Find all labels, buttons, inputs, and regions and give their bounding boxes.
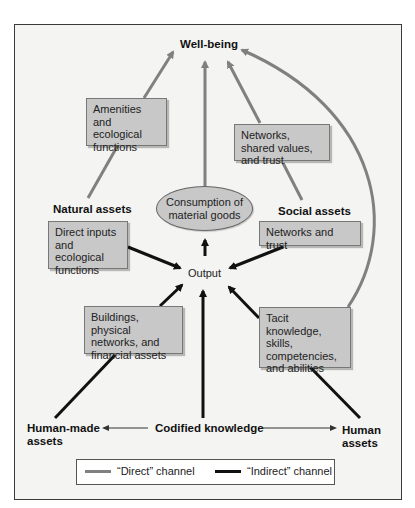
node-networks-trust: Networks and trust xyxy=(259,221,361,246)
node-consumption: Consumption of material goods xyxy=(156,186,253,231)
node-networks-shared: Networks, shared values, and trust xyxy=(234,124,330,161)
legend-direct-label: “Direct” channel xyxy=(117,465,195,477)
legend: “Direct” channel “Indirect” channel xyxy=(76,459,335,485)
legend-indirect: “Indirect” channel xyxy=(215,465,332,477)
node-buildings: Buildings, physical networks, and financ… xyxy=(84,306,183,354)
node-direct-inputs: Direct inputs and ecological functions xyxy=(48,221,128,269)
node-social-assets: Social assets xyxy=(278,205,351,218)
node-codified-knowledge: Codified knowledge xyxy=(155,422,264,435)
indirect-line-swatch xyxy=(215,470,241,473)
link-humanassets-tacit xyxy=(310,367,360,418)
node-amenities: Amenities and ecological functions xyxy=(86,98,167,146)
link-tacit-wellbeing xyxy=(242,50,374,307)
node-human-made-assets: Human-made assets xyxy=(27,422,102,448)
node-output: Output xyxy=(188,267,221,279)
direct-line-swatch xyxy=(85,470,111,473)
link-direct-output xyxy=(128,247,180,268)
node-tacit: Tacit knowledge, skills, competencies, a… xyxy=(259,307,351,368)
link-networks-wellbeing xyxy=(228,62,260,123)
node-wellbeing: Well-being xyxy=(180,38,238,51)
link-humanmade-buildings xyxy=(55,355,115,418)
node-human-assets: Human assets xyxy=(342,424,392,450)
link-social-networks xyxy=(283,163,302,200)
link-amenities-wellbeing xyxy=(144,52,173,98)
link-tacit-output xyxy=(229,287,259,318)
legend-direct: “Direct” channel xyxy=(85,465,195,477)
legend-indirect-label: “Indirect” channel xyxy=(247,465,332,477)
node-natural-assets: Natural assets xyxy=(53,203,132,216)
link-buildings-output xyxy=(160,285,182,306)
